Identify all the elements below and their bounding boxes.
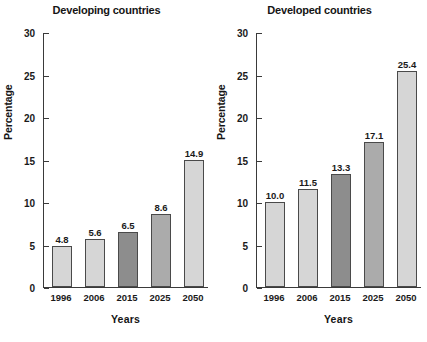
bar-value-label: 11.5: [299, 177, 317, 188]
bar: 4.8: [52, 246, 72, 287]
bar-value-label: 25.4: [398, 59, 417, 70]
x-tick-label: 2025: [149, 292, 170, 303]
y-axis-title-left: Percentage: [2, 84, 14, 140]
x-tick-label: 2050: [395, 292, 416, 303]
x-tick-label: 2006: [296, 292, 317, 303]
y-tick-mark: [257, 288, 262, 289]
x-tick-label: 2015: [329, 292, 350, 303]
x-tick-label: 2006: [83, 292, 104, 303]
bar-value-label: 10.0: [266, 190, 285, 201]
x-tick-label: 2015: [116, 292, 137, 303]
bar: 8.6: [151, 214, 171, 287]
bar-value-label: 14.9: [185, 148, 204, 159]
panel-developing-countries: Developing countries Percentage 05101520…: [0, 0, 213, 342]
bar: 13.3: [331, 174, 351, 287]
x-tick-label: 2050: [182, 292, 203, 303]
x-tick-label: 2025: [362, 292, 383, 303]
y-tick-label: 15: [24, 155, 35, 166]
bar-value-label: 8.6: [154, 202, 167, 213]
bar: 11.5: [298, 189, 318, 287]
y-tick-label: 10: [237, 198, 248, 209]
bar: 5.6: [85, 239, 105, 287]
bar: 25.4: [397, 71, 417, 287]
x-tick-label: 1996: [263, 292, 284, 303]
plot-area-right: 051015202530 10.011.513.317.125.4: [256, 33, 421, 288]
x-axis-title-right: Years: [256, 313, 421, 325]
y-axis-title-right: Percentage: [215, 84, 227, 140]
y-tick-mark: [44, 288, 49, 289]
panel-developed-countries: Developed countries Percentage 051015202…: [213, 0, 426, 342]
y-tick-label: 10: [24, 198, 35, 209]
y-tick-label: 20: [237, 113, 248, 124]
dual-bar-chart-figure: Developing countries Percentage 05101520…: [0, 0, 427, 342]
bar: 10.0: [265, 202, 285, 287]
bar-value-label: 6.5: [121, 220, 134, 231]
bar-value-label: 4.8: [55, 234, 68, 245]
bar-group-left: 4.85.66.58.614.9: [46, 33, 209, 287]
bar-value-label: 5.6: [88, 227, 101, 238]
plot-area-left: 051015202530 4.85.66.58.614.9: [43, 33, 208, 288]
bar: 6.5: [118, 232, 138, 287]
y-tick-label: 5: [29, 240, 35, 251]
y-tick-label: 25: [24, 70, 35, 81]
y-tick-label: 30: [24, 28, 35, 39]
y-tick-label: 5: [242, 240, 248, 251]
y-tick-label: 25: [237, 70, 248, 81]
chart-title-left: Developing countries: [0, 4, 213, 16]
y-tick-label: 15: [237, 155, 248, 166]
x-axis-title-left: Years: [43, 313, 208, 325]
y-tick-label: 0: [29, 283, 35, 294]
x-tick-label: 1996: [50, 292, 71, 303]
y-tick-label: 20: [24, 113, 35, 124]
bar: 14.9: [184, 160, 204, 287]
chart-title-right: Developed countries: [213, 4, 426, 16]
bar-value-label: 13.3: [332, 162, 351, 173]
bar: 17.1: [364, 142, 384, 287]
bar-value-label: 17.1: [365, 130, 384, 141]
y-tick-label: 0: [242, 283, 248, 294]
bar-group-right: 10.011.513.317.125.4: [259, 33, 422, 287]
y-tick-label: 30: [237, 28, 248, 39]
